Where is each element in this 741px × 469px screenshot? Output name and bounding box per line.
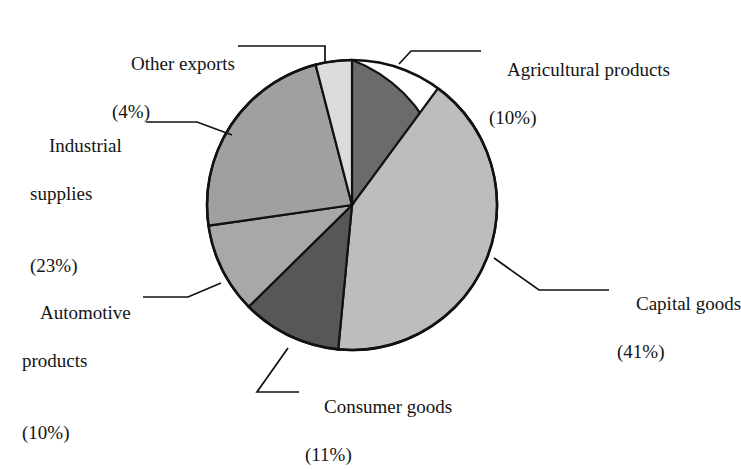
slice-label-automotive-products-percent: (10%) [22, 421, 131, 445]
slice-label-capital-goods: Capital goods (41%) [617, 268, 741, 412]
pie-slices [207, 60, 497, 350]
slice-label-other-exports: Other exports (4%) [112, 28, 235, 172]
slice-label-capital-goods-name: Capital goods [636, 293, 741, 314]
slice-label-other-exports-percent: (4%) [112, 100, 235, 124]
slice-label-capital-goods-percent: (41%) [617, 340, 741, 364]
leader-line-capital-goods [494, 258, 609, 290]
leader-line-other-exports [238, 46, 325, 62]
leader-line-consumer-goods [257, 348, 299, 392]
slice-label-consumer-goods: Consumer goods (11%) [305, 371, 452, 469]
slice-label-agricultural-percent: (10%) [489, 106, 670, 130]
slice-label-consumer-goods-percent: (11%) [305, 443, 452, 467]
slice-label-industrial-supplies-percent: (23%) [30, 254, 122, 278]
slice-label-consumer-goods-name: Consumer goods [324, 396, 452, 417]
slice-label-other-exports-name: Other exports [131, 53, 235, 74]
slice-label-industrial-supplies: Industrial supplies (23%) [30, 110, 122, 326]
slice-label-agricultural-name: Agricultural products [507, 59, 670, 80]
slice-label-agricultural: Agricultural products (10%) [489, 34, 670, 178]
slice-label-industrial-supplies-name1: Industrial [49, 135, 122, 156]
slice-label-industrial-supplies-name2: supplies [30, 182, 122, 206]
slice-label-automotive-products-name2: products [22, 349, 131, 373]
leader-line-automotive-products [143, 283, 221, 297]
leader-line-agricultural [399, 51, 481, 64]
